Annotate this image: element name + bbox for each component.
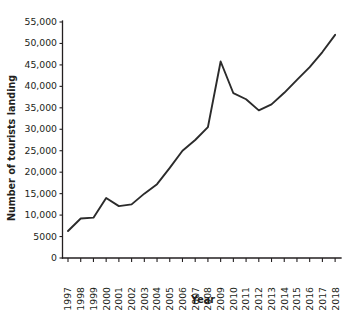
x-tick-label: 2010	[228, 287, 239, 311]
x-tick-label: 2005	[164, 287, 175, 311]
y-tick-label: 25,000	[24, 145, 57, 156]
x-tick-label: 2015	[291, 287, 302, 311]
x-tick-label: 2004	[151, 287, 162, 311]
y-tick-label: 5000	[33, 231, 57, 242]
x-tick-label: 2000	[101, 287, 112, 311]
x-tick-label: 1999	[88, 287, 99, 311]
line-chart-figure: 0500010,00015,00020,00025,00030,00035,00…	[0, 0, 348, 311]
x-tick-label: 2017	[317, 287, 328, 311]
x-tick-label: 2011	[240, 287, 251, 311]
y-tick-label: 30,000	[24, 123, 57, 134]
y-axis-tick-labels: 0500010,00015,00020,00025,00030,00035,00…	[24, 16, 57, 263]
tourist-data-line	[68, 35, 335, 231]
x-tick-label: 2006	[177, 287, 188, 311]
x-tick-label: 2003	[139, 287, 150, 311]
x-tick-label: 2009	[215, 287, 226, 311]
y-tick-label: 10,000	[24, 209, 57, 220]
y-tick-label: 55,000	[24, 16, 57, 27]
y-tick-label: 35,000	[24, 102, 57, 113]
chart-plot-area: 0500010,00015,00020,00025,00030,00035,00…	[0, 0, 348, 311]
x-tick-label: 2001	[113, 287, 124, 311]
x-tick-label: 1998	[75, 287, 86, 311]
y-tick-label: 15,000	[24, 188, 57, 199]
x-tick-label: 2002	[126, 287, 137, 311]
y-tick-label: 20,000	[24, 166, 57, 177]
x-tick-label: 2018	[330, 287, 341, 311]
x-tick-label: 2014	[279, 287, 290, 311]
y-tick-label: 40,000	[24, 80, 57, 91]
x-tick-label: 2013	[266, 287, 277, 311]
x-tick-label: 2016	[304, 287, 315, 311]
y-tick-label: 0	[51, 252, 57, 263]
x-axis-title: Year	[190, 294, 215, 305]
y-tick-label: 50,000	[24, 37, 57, 48]
y-tick-label: 45,000	[24, 59, 57, 70]
y-axis-title: Number of tourists landing	[6, 75, 17, 221]
x-tick-label: 1997	[62, 287, 73, 311]
x-tick-label: 2012	[253, 287, 264, 311]
